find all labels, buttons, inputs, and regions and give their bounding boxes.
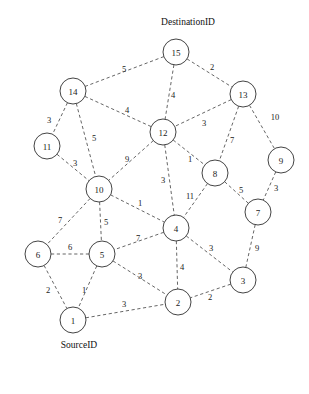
- edge-weight-10-5: 5: [104, 217, 108, 227]
- graph-edge-4-2: [176, 241, 177, 289]
- edge-weight-6-5: 6: [68, 242, 72, 252]
- graph-edge-4-3: [186, 236, 232, 272]
- node-label-11: 11: [43, 142, 52, 152]
- graph-node-7[interactable]: 7: [245, 199, 271, 225]
- node-label-8: 8: [213, 169, 218, 179]
- node-label-4: 4: [174, 224, 179, 234]
- graph-diagram-canvas: 5244353710393135111579734621323 15141312…: [0, 0, 309, 394]
- graph-edge-12-10: [109, 141, 154, 181]
- edge-weight-13-12: 3: [202, 118, 206, 128]
- node-label-13: 13: [239, 90, 249, 100]
- graph-edge-10-6: [47, 198, 90, 244]
- edge-weight-11-10: 3: [73, 158, 77, 168]
- node-label-14: 14: [69, 87, 79, 97]
- edge-weight-6-1: 2: [46, 285, 50, 295]
- edge-weight-13-9: 10: [271, 112, 280, 122]
- graph-edge-14-11: [53, 103, 68, 135]
- graph-edge-10-5: [100, 202, 102, 241]
- graph-edge-12-4: [165, 145, 175, 215]
- edge-weight-10-6: 7: [58, 215, 62, 225]
- graph-node-8[interactable]: 8: [202, 160, 228, 186]
- node-label-5: 5: [100, 250, 105, 260]
- graph-node-15[interactable]: 15: [163, 39, 189, 65]
- edge-weight-7-3: 9: [255, 243, 259, 253]
- graph-edge-8-7: [225, 182, 249, 204]
- node-label-10: 10: [95, 185, 105, 195]
- graph-edge-13-8: [219, 106, 238, 161]
- graph-node-13[interactable]: 13: [230, 81, 256, 107]
- nodes-layer: 151413121198107465321: [25, 39, 294, 333]
- edge-weight-12-8: 1: [188, 154, 192, 164]
- node-label-2: 2: [176, 298, 181, 308]
- edge-weight-12-10: 9: [125, 154, 129, 164]
- graph-node-2[interactable]: 2: [165, 289, 191, 315]
- edge-weight-15-13: 2: [210, 62, 214, 72]
- edge-weight-14-11: 3: [47, 115, 51, 125]
- graph-node-6[interactable]: 6: [25, 241, 51, 267]
- graph-edge-14-12: [85, 96, 151, 126]
- annotations-layer: DestinationIDSourceID: [61, 17, 215, 350]
- node-label-7: 7: [256, 208, 261, 218]
- node-label-1: 1: [71, 316, 76, 326]
- edge-weight-3-2: 2: [208, 292, 212, 302]
- graph-node-3[interactable]: 3: [230, 267, 256, 293]
- graph-node-5[interactable]: 5: [89, 241, 115, 267]
- graph-node-4[interactable]: 4: [163, 215, 189, 241]
- graph-node-14[interactable]: 14: [60, 78, 86, 104]
- edge-weight-15-12: 4: [171, 90, 176, 100]
- graph-node-9[interactable]: 9: [268, 147, 294, 173]
- edge-weight-14-12: 4: [125, 105, 130, 115]
- edge-weight-1-2: 3: [122, 299, 126, 309]
- node-label-9: 9: [279, 156, 284, 166]
- destination-label: DestinationID: [161, 17, 215, 27]
- graph-node-12[interactable]: 12: [150, 119, 176, 145]
- edge-weight-5-2: 3: [138, 271, 142, 281]
- edge-weight-13-8: 7: [230, 135, 234, 145]
- graph-edge-7-3: [246, 225, 255, 268]
- graph-node-11[interactable]: 11: [34, 133, 60, 159]
- edge-weight-15-14: 5: [122, 64, 126, 74]
- node-label-6: 6: [36, 250, 41, 260]
- graph-node-10[interactable]: 10: [86, 176, 112, 202]
- node-label-15: 15: [172, 48, 182, 58]
- node-label-12: 12: [159, 128, 168, 138]
- edge-weight-12-4: 3: [161, 175, 165, 185]
- edge-weight-8-4: 11: [186, 191, 194, 201]
- graph-svg: 5244353710393135111579734621323 15141312…: [0, 0, 309, 394]
- edge-weight-4-2: 4: [180, 262, 185, 272]
- edge-weight-9-7: 3: [274, 183, 278, 193]
- edge-weight-5-1: 1: [82, 285, 86, 295]
- graph-node-1[interactable]: 1: [60, 307, 86, 333]
- edge-weight-10-4: 1: [138, 198, 142, 208]
- edge-weight-4-3: 3: [209, 243, 213, 253]
- edge-weight-14-10: 5: [92, 133, 96, 143]
- source-label: SourceID: [61, 340, 98, 350]
- node-label-3: 3: [241, 276, 246, 286]
- edge-weight-8-7: 5: [239, 185, 243, 195]
- edge-weight-4-5: 7: [136, 233, 140, 243]
